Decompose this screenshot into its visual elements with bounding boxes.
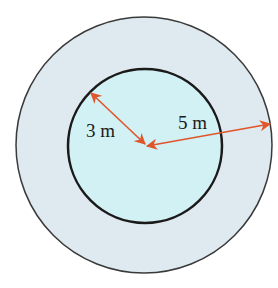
- concentric-circles-diagram: 3 m 5 m: [0, 0, 278, 288]
- outer-radius-label: 5 m: [178, 112, 207, 133]
- inner-circle: [68, 69, 222, 223]
- inner-radius-label: 3 m: [86, 120, 115, 141]
